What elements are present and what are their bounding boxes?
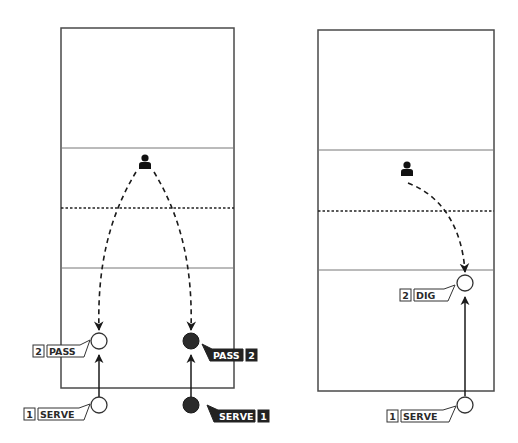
step-number: 1 <box>389 411 396 422</box>
action-label: PASS <box>213 350 240 361</box>
circle-marker-serve <box>457 397 473 413</box>
circle-marker-white-serve <box>91 397 107 413</box>
circle-marker-black-pass <box>183 333 199 349</box>
circle-marker-black-serve <box>183 397 199 413</box>
action-label: SERVE <box>219 411 254 422</box>
circle-marker-white-pass <box>91 333 107 349</box>
action-label: PASS <box>49 346 76 357</box>
step-number: 2 <box>35 346 42 357</box>
action-label: SERVE <box>403 411 438 422</box>
step-number: 2 <box>402 290 409 301</box>
step-number: 1 <box>260 411 267 422</box>
label-white-serve: 1 SERVE <box>24 404 90 420</box>
action-label: SERVE <box>40 409 75 420</box>
action-label: DIG <box>416 290 435 301</box>
label-serve: 1 SERVE <box>387 406 456 422</box>
label-black-serve: SERVE 1 <box>207 405 269 422</box>
step-number: 1 <box>26 409 33 420</box>
volleyball-drill-diagram: 2 PASS 1 SERVE PASS 2 SERVE 1 <box>0 0 518 443</box>
left-court-diagram: 2 PASS 1 SERVE PASS 2 SERVE 1 <box>24 28 269 422</box>
circle-marker-dig <box>457 275 473 291</box>
right-court-diagram: 2 DIG 1 SERVE <box>318 30 494 422</box>
step-number: 2 <box>248 350 255 361</box>
